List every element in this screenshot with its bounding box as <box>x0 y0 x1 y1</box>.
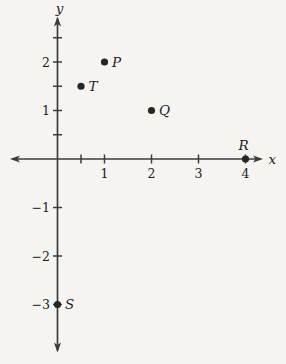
point-S-label: S <box>65 296 74 312</box>
x-tick-label-2: 2 <box>148 166 156 181</box>
x-tick-label-3: 3 <box>195 166 203 181</box>
x-axis-label: x <box>269 151 277 167</box>
point-S-dot <box>54 301 61 308</box>
y-tick-label--2: −2 <box>32 249 50 264</box>
y-tick-label--3: −3 <box>32 297 50 312</box>
y-axis-label: y <box>55 0 64 16</box>
point-Q-dot <box>148 107 155 114</box>
y-tick-label-1: 1 <box>42 103 50 118</box>
point-R-dot <box>242 155 249 162</box>
point-T-dot <box>77 83 84 90</box>
point-P-dot <box>101 58 108 65</box>
point-P-label: P <box>111 54 122 70</box>
scatter-plot: xy123421−1−2−3PTQRS <box>0 0 286 364</box>
x-tick-label-1: 1 <box>101 166 109 181</box>
y-tick-label--1: −1 <box>32 200 50 215</box>
point-T-label: T <box>89 78 99 94</box>
point-Q-label: Q <box>159 102 170 118</box>
x-tick-label-4: 4 <box>242 166 250 181</box>
point-R-label: R <box>237 137 248 153</box>
coordinate-plane-figure: xy123421−1−2−3PTQRS <box>0 0 286 364</box>
y-tick-label-2: 2 <box>42 55 50 70</box>
